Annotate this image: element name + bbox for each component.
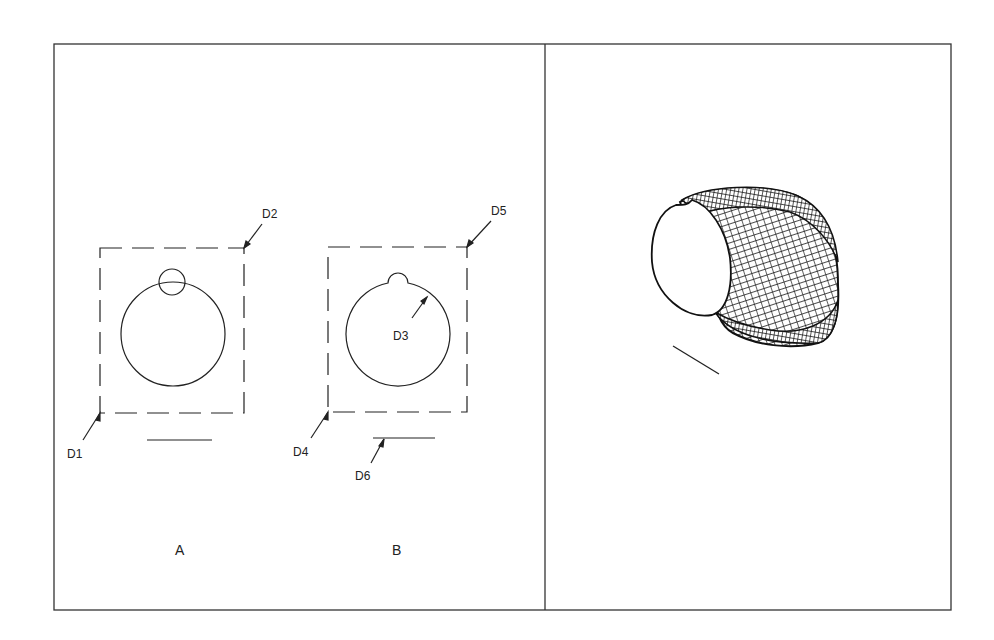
arrowhead-d4 [324,412,328,420]
arrowhead-d1 [96,413,100,421]
view-a [83,224,262,440]
label-d1: D1 [67,447,83,461]
diagram-canvas: D2 D1 A D5 D3 D4 D6 B [0,0,994,640]
label-d5: D5 [491,204,507,218]
view-label-b: B [392,542,401,558]
swept-elbow-3d [652,187,839,374]
arrowhead-d6 [379,439,384,447]
label-d3: D3 [393,329,409,343]
label-d4: D4 [293,445,309,459]
label-d6: D6 [355,469,371,483]
sweep-path-line [673,346,719,374]
label-d2: D2 [262,207,278,221]
arrowhead-d3 [421,297,427,304]
large-circle-a [121,282,225,386]
view-label-a: A [175,542,185,558]
